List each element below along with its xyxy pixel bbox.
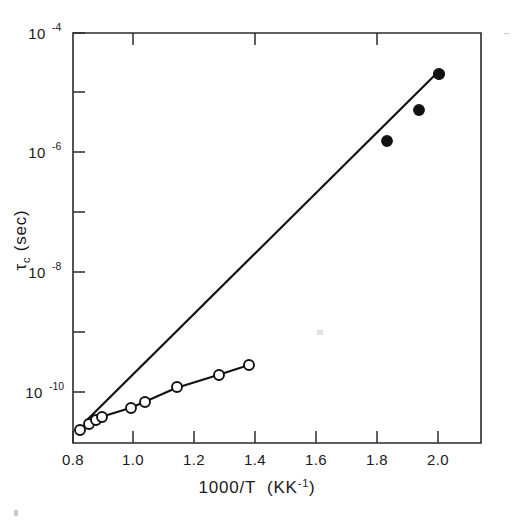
x-axis-ticks (73, 431, 438, 443)
x-axis-title-units: (K (267, 478, 286, 497)
y-tick-label-exponent-1: -6 (52, 140, 61, 152)
x-tick-label-3: 1.4 (244, 451, 266, 468)
data-point-open (172, 382, 182, 392)
x-axis-top-ticks (133, 33, 377, 45)
arrhenius-plot: 10 -4 10 -6 10 -8 10 -10 0.8 1.0 1.2 1.4… (0, 0, 512, 524)
data-point-open (140, 397, 150, 407)
y-tick-label-mantissa-0: 10 (28, 25, 46, 42)
x-axis-title-units-close: ) (309, 478, 315, 497)
data-point-open (126, 403, 136, 413)
data-point-open (97, 412, 107, 422)
axes-box (73, 33, 481, 443)
y-tick-label-mantissa-1: 10 (28, 144, 46, 161)
svg-text:1000/T (KK-1): 1000/T (KK-1) (198, 477, 315, 497)
x-tick-label-4: 1.6 (305, 451, 327, 468)
y-tick-label-exponent-3: -10 (49, 380, 64, 392)
svg-text:τc (sec): τc (sec) (11, 209, 32, 270)
x-tick-label-6: 2.0 (427, 451, 449, 468)
x-tick-label-2: 1.2 (183, 451, 205, 468)
y-axis-title-units: (sec) (11, 209, 30, 256)
fit-line-steep (86, 72, 438, 421)
data-point-filled (382, 136, 393, 147)
x-axis-title: 1000/T (KK-1) (198, 477, 315, 497)
y-tick-label-exponent-2: -8 (52, 260, 61, 272)
y-tick-label-mantissa-3: 10 (25, 384, 43, 401)
data-point-open (244, 360, 254, 370)
filled-circle-points (382, 69, 445, 147)
y-axis-ticks (73, 33, 85, 392)
plot-frame (73, 33, 481, 443)
data-point-filled (434, 69, 445, 80)
y-axis-title-symbol: τ (11, 263, 30, 271)
data-point-filled (414, 105, 425, 116)
x-tick-labels: 0.8 1.0 1.2 1.4 1.6 1.8 2.0 (62, 451, 449, 468)
y-tick-label-exponent-0: -4 (52, 21, 61, 33)
figure-container: 10 -4 10 -6 10 -8 10 -10 0.8 1.0 1.2 1.4… (0, 0, 512, 524)
x-tick-label-0: 0.8 (62, 451, 84, 468)
x-axis-title-units-exponent: -1 (298, 477, 309, 489)
x-tick-label-5: 1.8 (366, 451, 388, 468)
y-tick-labels: 10 -4 10 -6 10 -8 10 -10 (25, 21, 64, 401)
data-point-open (75, 425, 85, 435)
data-point-open (214, 370, 224, 380)
y-axis-title: τc (sec) (11, 209, 32, 270)
x-axis-title-main: 1000/T (198, 478, 255, 497)
y-tick-label-mantissa-2: 10 (28, 264, 46, 281)
x-tick-label-1: 1.0 (122, 451, 144, 468)
